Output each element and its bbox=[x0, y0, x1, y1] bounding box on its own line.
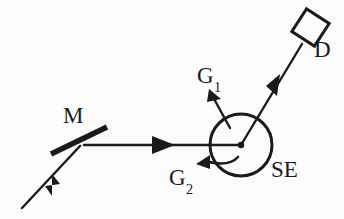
label-gradient-2-subscript: 2 bbox=[186, 181, 193, 197]
label-gradient-1: G1 bbox=[197, 64, 221, 91]
mirror bbox=[51, 127, 107, 154]
detector-beam bbox=[241, 44, 302, 145]
gradient-2-arrowhead bbox=[196, 155, 210, 169]
horizontal-beam-arrowhead bbox=[152, 136, 175, 154]
mirror-surface bbox=[51, 127, 107, 154]
horizontal-beam bbox=[84, 136, 241, 154]
label-gradient-2-base: G bbox=[169, 165, 186, 190]
incoming-beam bbox=[22, 146, 80, 208]
incoming-beam-line bbox=[22, 146, 80, 208]
label-mirror: M bbox=[63, 104, 83, 127]
optical-setup-figure: M G1 G2 SE D bbox=[0, 0, 344, 219]
label-gradient-1-base: G bbox=[197, 63, 214, 88]
label-gradient-1-subscript: 1 bbox=[214, 79, 221, 95]
gradient-1-arrow-line bbox=[213, 97, 230, 128]
label-detector: D bbox=[314, 38, 331, 61]
incoming-beam-arrowhead bbox=[45, 174, 60, 196]
label-gradient-2: G2 bbox=[169, 166, 193, 193]
label-sample: SE bbox=[271, 158, 298, 181]
detector-beam-line bbox=[241, 44, 302, 145]
